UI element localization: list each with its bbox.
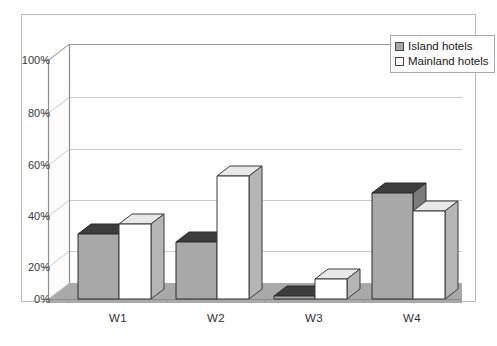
y-tick-label-100: 100% <box>8 54 50 65</box>
x-axis-labels: W1 W2 W3 W4 <box>22 15 477 303</box>
y-axis-labels: 100% 80% 60% 40% 20% 0% <box>0 0 50 288</box>
x-tick-label-w2: W2 <box>207 312 225 324</box>
y-tick-label-80: 80% <box>8 107 50 118</box>
chart-frame: Island hotels Mainland hotels W1 W2 W3 W… <box>21 14 476 302</box>
x-tick-label-w3: W3 <box>305 312 323 324</box>
x-tick-label-w4: W4 <box>403 312 421 324</box>
y-tick-label-60: 60% <box>8 159 50 170</box>
x-tick-label-w1: W1 <box>109 312 127 324</box>
y-tick-label-40: 40% <box>8 210 50 221</box>
chart-screenshot: Island hotels Mainland hotels W1 W2 W3 W… <box>0 0 497 346</box>
y-tick-label-0: 0% <box>8 293 50 304</box>
y-tick-label-20: 20% <box>8 261 50 272</box>
